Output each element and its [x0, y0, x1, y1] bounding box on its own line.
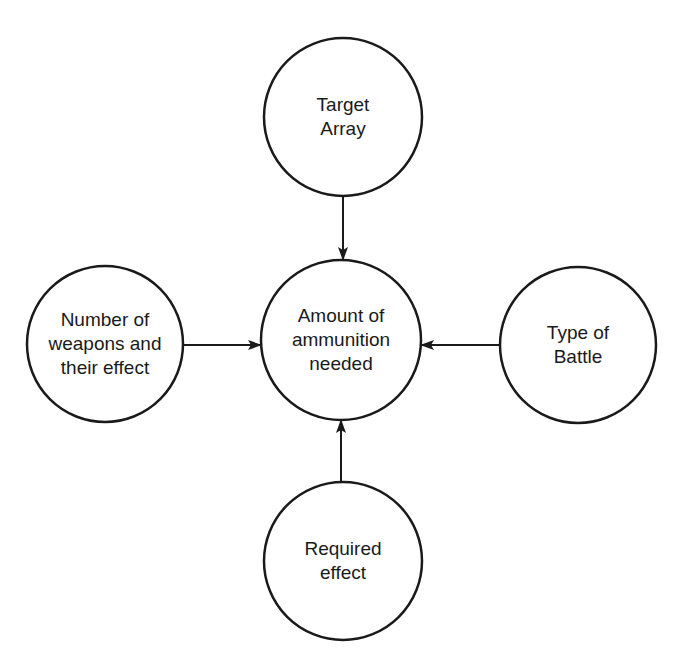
node-number-of-weapons: Number ofweapons andtheir effect — [27, 266, 183, 422]
node-label: TargetArray — [317, 93, 370, 141]
node-label: Requiredeffect — [304, 537, 381, 585]
node-label-line: Battle — [547, 345, 609, 369]
node-label: Number ofweapons andtheir effect — [48, 308, 161, 380]
node-label-line: Array — [317, 117, 370, 141]
node-required-effect: Requiredeffect — [264, 482, 422, 640]
node-label: Amount ofammunitionneeded — [292, 304, 390, 376]
node-label-line: ammunition — [292, 328, 390, 352]
node-label-line: weapons and — [48, 332, 161, 356]
node-label-line: their effect — [48, 356, 161, 380]
node-label: Type ofBattle — [547, 321, 609, 369]
node-amount-of-ammunition-needed: Amount ofammunitionneeded — [261, 260, 421, 420]
node-label-line: needed — [292, 352, 390, 376]
node-label-line: Type of — [547, 321, 609, 345]
node-label-line: Required — [304, 537, 381, 561]
node-label-line: Target — [317, 93, 370, 117]
node-type-of-battle: Type ofBattle — [500, 267, 656, 423]
node-label-line: Amount of — [292, 304, 390, 328]
node-target-array: TargetArray — [264, 38, 422, 196]
node-label-line: Number of — [48, 308, 161, 332]
node-label-line: effect — [304, 561, 381, 585]
